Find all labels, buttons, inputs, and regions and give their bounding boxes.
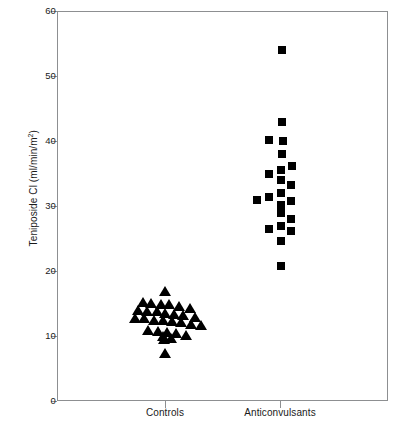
data-point-anticonvulsants bbox=[265, 170, 273, 178]
y-axis-tick-label-0: 0 bbox=[16, 396, 56, 406]
data-point-anticonvulsants bbox=[277, 176, 285, 184]
data-point-anticonvulsants bbox=[287, 227, 295, 235]
data-point-anticonvulsants bbox=[287, 215, 295, 223]
data-point-anticonvulsants bbox=[277, 166, 285, 174]
plot-area bbox=[57, 11, 388, 401]
data-point-controls bbox=[159, 348, 171, 358]
data-point-anticonvulsants bbox=[278, 46, 286, 54]
data-point-anticonvulsants bbox=[287, 197, 295, 205]
data-point-anticonvulsants bbox=[287, 181, 295, 189]
data-point-anticonvulsants bbox=[277, 262, 285, 270]
y-axis-tick-label-20: 20 bbox=[16, 266, 56, 276]
teniposide-clearance-dot-plot: Teniposide Cl (ml/min/m2) 0102030405060 … bbox=[0, 0, 407, 430]
data-point-controls bbox=[158, 334, 170, 344]
data-point-anticonvulsants bbox=[278, 150, 286, 158]
data-point-controls bbox=[180, 330, 192, 340]
data-point-anticonvulsants bbox=[277, 237, 285, 245]
y-axis-tick-label-50: 50 bbox=[16, 71, 56, 81]
y-axis-tick-label-40: 40 bbox=[16, 136, 56, 146]
y-axis-tick-label-60: 60 bbox=[16, 6, 56, 16]
data-point-anticonvulsants bbox=[277, 201, 285, 209]
data-point-anticonvulsants bbox=[279, 137, 287, 145]
y-axis-tick-label-30: 30 bbox=[16, 201, 56, 211]
y-axis-title-tail: ) bbox=[28, 130, 39, 133]
data-point-anticonvulsants bbox=[278, 118, 286, 126]
data-point-anticonvulsants bbox=[253, 196, 261, 204]
data-point-controls bbox=[159, 286, 171, 296]
data-point-anticonvulsants bbox=[277, 222, 285, 230]
data-point-anticonvulsants bbox=[265, 225, 273, 233]
data-point-anticonvulsants bbox=[265, 193, 273, 201]
data-point-anticonvulsants bbox=[277, 189, 285, 197]
y-axis-title-text: Teniposide Cl (ml/min/m bbox=[28, 137, 39, 246]
data-point-anticonvulsants bbox=[288, 162, 296, 170]
x-axis-label-anticonvulsants: Anticonvulsants bbox=[210, 407, 350, 418]
page-margin-artifact bbox=[393, 290, 405, 410]
data-point-controls bbox=[195, 320, 207, 330]
y-axis-title: Teniposide Cl (ml/min/m2) bbox=[27, 103, 39, 273]
y-axis-tick-label-10: 10 bbox=[16, 331, 56, 341]
data-point-anticonvulsants bbox=[265, 136, 273, 144]
data-point-anticonvulsants bbox=[277, 209, 285, 217]
